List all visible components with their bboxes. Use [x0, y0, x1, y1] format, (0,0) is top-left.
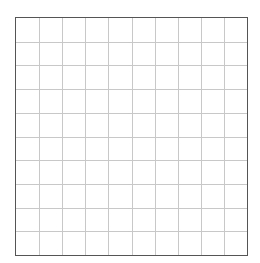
grid-line-horizontal [16, 89, 247, 90]
grid-line-horizontal [16, 137, 247, 138]
grid-line-horizontal [16, 42, 247, 43]
grid-line-horizontal [16, 65, 247, 66]
grid-line-horizontal [16, 184, 247, 185]
empty-grid [15, 17, 248, 256]
grid-line-horizontal [16, 208, 247, 209]
grid-line-horizontal [16, 113, 247, 114]
grid-line-horizontal [16, 231, 247, 232]
grid-line-horizontal [16, 160, 247, 161]
